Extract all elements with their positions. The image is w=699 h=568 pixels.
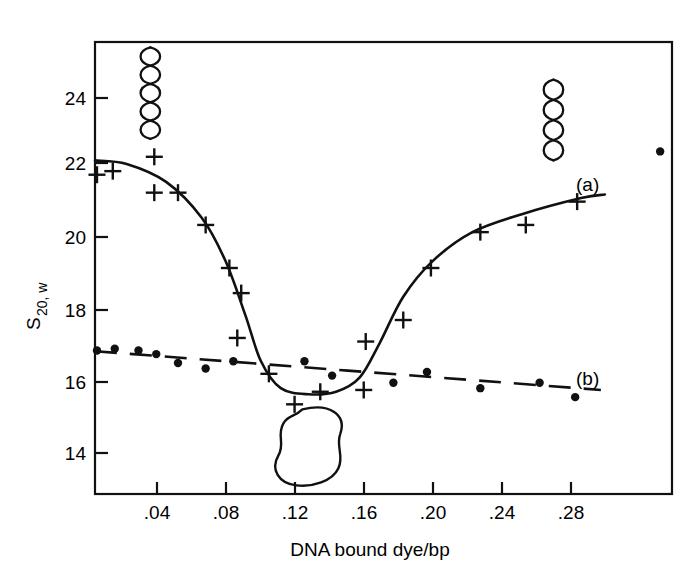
dot-marker bbox=[656, 147, 664, 155]
annotation-layer bbox=[141, 47, 564, 485]
figure-panel: 24 22 20 18 16 14 S 20, w .04 .08 .12 bbox=[0, 0, 699, 568]
dot-marker bbox=[174, 359, 182, 367]
x-tick-label-008: .08 bbox=[213, 502, 239, 523]
y-axis-title: S 20, w bbox=[23, 282, 50, 330]
x-tick-label-020: .20 bbox=[420, 502, 446, 523]
plus-marker bbox=[395, 312, 412, 329]
series-label-b: (b) bbox=[576, 368, 599, 389]
plus-marker bbox=[88, 166, 105, 183]
y-tick-label-16: 16 bbox=[65, 372, 86, 393]
x-axis-tick-labels: .04 .08 .12 .16 .20 .24 .28 bbox=[144, 502, 584, 523]
plus-marker bbox=[357, 333, 374, 350]
dot-marker bbox=[328, 371, 336, 379]
x-axis-ticks bbox=[157, 482, 571, 494]
dot-marker bbox=[229, 357, 237, 365]
x-tick-label-024: .24 bbox=[489, 502, 516, 523]
series-points-a bbox=[88, 148, 585, 413]
plus-marker bbox=[517, 216, 534, 233]
y-tick-label-18: 18 bbox=[65, 300, 86, 321]
plus-marker bbox=[146, 148, 163, 165]
series-label-a: (a) bbox=[576, 174, 599, 195]
dot-marker bbox=[476, 384, 484, 392]
dot-marker bbox=[93, 346, 101, 354]
dot-marker bbox=[300, 357, 308, 365]
y-tick-label-24: 24 bbox=[65, 88, 87, 109]
dot-marker bbox=[423, 368, 431, 376]
plus-marker bbox=[229, 329, 246, 346]
x-tick-label-012: .12 bbox=[282, 502, 308, 523]
y-tick-label-20: 20 bbox=[65, 227, 86, 248]
relaxed-dna-icon bbox=[275, 407, 341, 485]
y-tick-label-14: 14 bbox=[65, 443, 87, 464]
y-axis-ticks bbox=[95, 98, 108, 453]
plot-frame bbox=[95, 42, 672, 494]
plus-marker bbox=[146, 184, 163, 201]
dot-marker bbox=[535, 379, 543, 387]
plus-marker bbox=[422, 260, 439, 277]
x-tick-label-016: .16 bbox=[351, 502, 377, 523]
dot-marker bbox=[134, 346, 142, 354]
y-axis-title-base: S bbox=[23, 317, 44, 330]
y-tick-label-22: 22 bbox=[65, 153, 86, 174]
dot-marker bbox=[111, 345, 119, 353]
dot-marker bbox=[571, 393, 579, 401]
dot-marker bbox=[389, 379, 397, 387]
supercoiled-dna-icon-right bbox=[544, 80, 564, 161]
plus-marker bbox=[104, 163, 121, 180]
y-axis-tick-labels: 24 22 20 18 16 14 bbox=[65, 88, 87, 464]
plus-marker bbox=[312, 383, 329, 400]
plus-marker bbox=[569, 193, 586, 210]
dot-marker bbox=[152, 350, 160, 358]
plus-marker bbox=[221, 260, 238, 277]
series-fit-a bbox=[95, 160, 605, 394]
sedimentation-chart: 24 22 20 18 16 14 S 20, w .04 .08 .12 bbox=[0, 0, 699, 568]
series-fit-b bbox=[95, 351, 601, 390]
x-axis-title: DNA bound dye/bp bbox=[290, 539, 450, 560]
y-axis-title-subscript: 20, w bbox=[34, 282, 50, 316]
dot-marker bbox=[201, 364, 209, 372]
x-tick-label-004: .04 bbox=[144, 502, 171, 523]
x-tick-label-028: .28 bbox=[558, 502, 584, 523]
plus-marker bbox=[355, 381, 372, 398]
supercoiled-dna-icon-left bbox=[141, 47, 161, 138]
